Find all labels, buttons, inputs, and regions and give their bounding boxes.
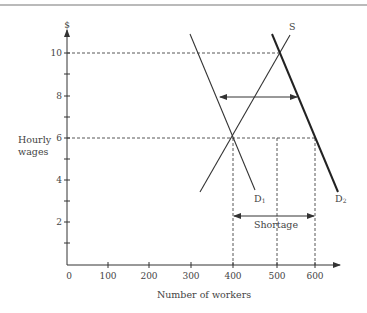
reference-lines (67, 53, 315, 265)
shortage-label: Shortage (254, 219, 298, 230)
demand-curve-d2 (272, 34, 338, 192)
labor-market-chart: 10 8 6 4 2 $ 0 100 200 300 400 500 600 H… (0, 0, 367, 313)
d2-label: D2 (335, 193, 347, 204)
y-tick-6: 6 (56, 133, 62, 143)
y-tick-2: 2 (56, 217, 62, 227)
y-tick-10: 10 (51, 48, 63, 58)
x-axis-title: Number of workers (157, 289, 251, 300)
x-tick-400: 400 (224, 271, 241, 281)
x-tick-600: 600 (306, 271, 323, 281)
x-tick-200: 200 (140, 271, 157, 281)
y-tick-4: 4 (56, 175, 62, 185)
x-tick-500: 500 (268, 271, 285, 281)
x-tick-100: 100 (99, 271, 116, 281)
x-tick-300: 300 (182, 271, 199, 281)
y-tick-8: 8 (56, 91, 62, 101)
d1-label: D1 (254, 193, 265, 204)
x-tick-0: 0 (66, 271, 72, 281)
supply-label: S (289, 21, 296, 32)
supply-curve-s (200, 35, 290, 192)
y-axis-title-line2: wages (18, 146, 48, 157)
y-unit: $ (64, 20, 70, 30)
y-axis-title-line1: Hourly (18, 134, 52, 145)
